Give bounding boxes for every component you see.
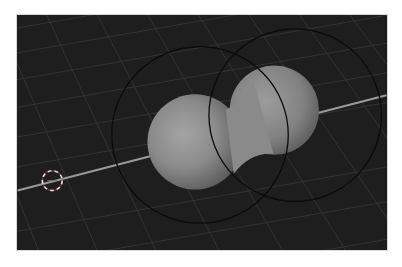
3d-viewport[interactable] [16,14,388,251]
metaball-object[interactable] [147,66,319,190]
metaball-left[interactable] [147,94,242,189]
viewport-canvas[interactable] [17,15,387,250]
